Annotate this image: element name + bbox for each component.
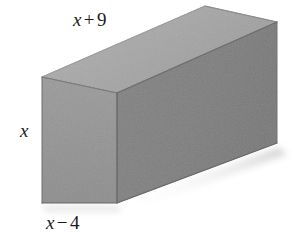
prism-body bbox=[42, 6, 277, 203]
label-bottom-variable: x bbox=[46, 212, 55, 233]
label-length-top: x+9 bbox=[73, 10, 107, 29]
label-top-operator: + bbox=[82, 9, 97, 30]
rectangular-prism-figure: x+9 x x−4 bbox=[0, 0, 297, 249]
label-top-variable: x bbox=[73, 9, 82, 30]
label-bottom-number: 4 bbox=[70, 212, 80, 233]
label-width-bottom: x−4 bbox=[46, 213, 80, 232]
label-left-variable: x bbox=[20, 120, 29, 141]
label-height-left: x bbox=[20, 121, 29, 140]
front-left-face bbox=[42, 77, 117, 203]
prism-illustration bbox=[0, 0, 297, 249]
label-top-number: 9 bbox=[97, 9, 107, 30]
label-bottom-operator: − bbox=[55, 212, 70, 233]
